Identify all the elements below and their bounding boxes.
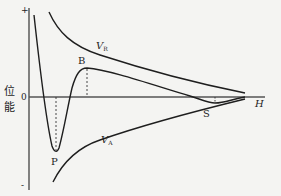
y-axis-zero-label: 0 — [21, 92, 27, 102]
y-axis-label-line1: 位 — [4, 84, 15, 98]
repulsion-label: VR — [96, 40, 108, 52]
y-axis-label-line2: 能 — [4, 100, 15, 114]
potential-energy-diagram: + - 0 位 能 H VR VA B P S — [0, 0, 281, 196]
barrier-label: B — [78, 55, 85, 66]
secondary-minimum-label: S — [203, 108, 210, 119]
y-axis-top-sign: + — [21, 5, 29, 15]
x-axis-label: H — [254, 98, 264, 109]
attraction-curve — [53, 99, 245, 182]
primary-minimum-label: P — [51, 156, 58, 167]
repulsion-curve — [49, 12, 245, 93]
y-axis-bottom-sign: - — [21, 180, 24, 190]
